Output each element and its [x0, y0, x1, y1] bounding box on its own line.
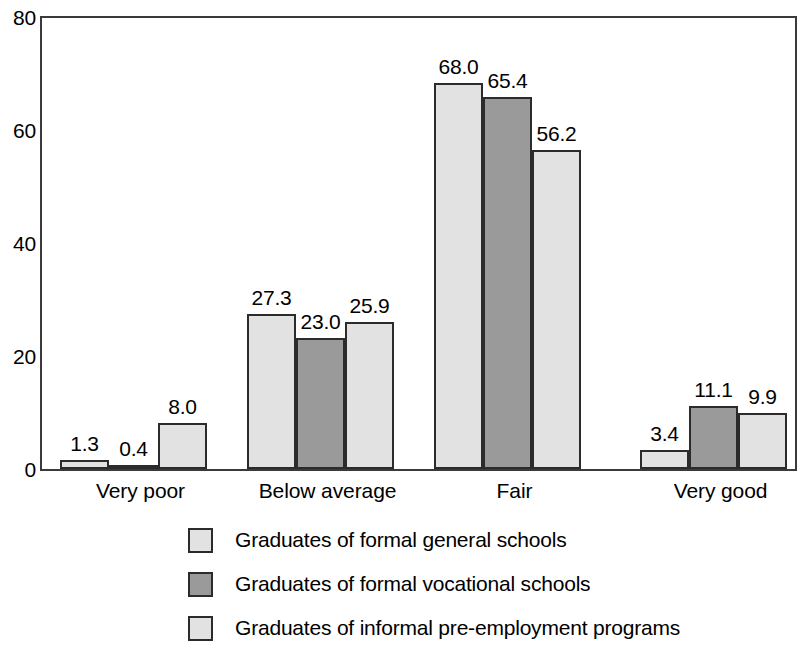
bar-chart: 80 60 40 20 0 1.3 0.4 8.0 27.3 23.0 25.9 — [0, 0, 806, 650]
category-label-fair: Fair — [432, 480, 597, 502]
y-tick-label-0: 0 — [2, 459, 36, 480]
category-label-below-average: Below average — [245, 480, 410, 502]
bar-value-below-average-vocational: 23.0 — [296, 311, 345, 332]
plot-area: 1.3 0.4 8.0 27.3 23.0 25.9 68.0 65.4 56.… — [40, 16, 797, 471]
bar-very-good-vocational[interactable] — [689, 406, 738, 469]
bar-very-good-general[interactable] — [640, 450, 689, 469]
bar-value-fair-vocational: 65.4 — [483, 70, 532, 91]
bar-value-very-poor-vocational: 0.4 — [109, 438, 158, 459]
legend-label-informal: Graduates of informal pre-employment pro… — [235, 615, 680, 640]
legend-label-vocational: Graduates of formal vocational schools — [235, 571, 590, 596]
bar-value-very-poor-general: 1.3 — [60, 433, 109, 454]
bar-below-average-general[interactable] — [247, 314, 296, 469]
bar-value-very-good-general: 3.4 — [640, 423, 689, 444]
bar-very-poor-general[interactable] — [60, 460, 109, 469]
legend-swatch-icon-general — [188, 528, 213, 553]
y-tick-label-80: 80 — [2, 7, 36, 28]
bar-value-fair-informal: 56.2 — [532, 123, 581, 144]
bar-value-below-average-informal: 25.9 — [345, 295, 394, 316]
y-tick-label-40: 40 — [2, 233, 36, 254]
bar-very-good-informal[interactable] — [738, 413, 787, 469]
legend-swatch-icon-informal — [188, 616, 213, 641]
bar-value-very-poor-informal: 8.0 — [158, 396, 207, 417]
y-axis: 80 60 40 20 0 — [0, 0, 36, 650]
category-label-very-poor: Very poor — [58, 480, 223, 502]
bar-below-average-vocational[interactable] — [296, 338, 345, 469]
bar-very-poor-vocational[interactable] — [109, 465, 158, 469]
bar-fair-general[interactable] — [434, 83, 483, 469]
bar-value-very-good-informal: 9.9 — [738, 386, 787, 407]
legend-label-general: Graduates of formal general schools — [235, 527, 567, 552]
bar-value-fair-general: 68.0 — [434, 56, 483, 77]
bar-fair-informal[interactable] — [532, 150, 581, 469]
bar-value-very-good-vocational: 11.1 — [689, 379, 738, 400]
y-tick-label-60: 60 — [2, 120, 36, 141]
category-label-very-good: Very good — [638, 480, 803, 502]
bar-value-below-average-general: 27.3 — [247, 287, 296, 308]
bar-fair-vocational[interactable] — [483, 97, 532, 469]
y-tick-label-20: 20 — [2, 346, 36, 367]
bar-very-poor-informal[interactable] — [158, 423, 207, 469]
bar-below-average-informal[interactable] — [345, 322, 394, 469]
legend-swatch-icon-vocational — [188, 572, 213, 597]
